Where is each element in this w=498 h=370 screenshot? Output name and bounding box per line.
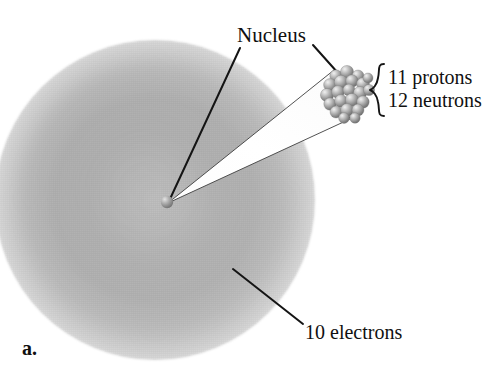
leader-line-nucleus-to-cluster — [313, 45, 338, 73]
label-nucleus: Nucleus — [237, 25, 306, 46]
nucleon-sphere — [350, 113, 360, 123]
nucleon-sphere — [363, 84, 374, 95]
leader-line-electrons-to-cloud — [233, 269, 303, 324]
diagram-vector-layer — [0, 0, 498, 370]
label-protons: 11 protons — [388, 67, 472, 87]
figure-letter: a. — [22, 338, 37, 358]
nucleus-dot — [161, 196, 173, 208]
curly-brace — [370, 64, 384, 116]
atom-diagram: Nucleus 11 protons 12 neutrons 10 electr… — [0, 0, 498, 370]
nucleon-sphere — [339, 113, 350, 124]
label-electrons: 10 electrons — [305, 322, 402, 342]
label-neutrons: 12 neutrons — [388, 90, 482, 110]
nucleon-sphere — [363, 73, 373, 83]
